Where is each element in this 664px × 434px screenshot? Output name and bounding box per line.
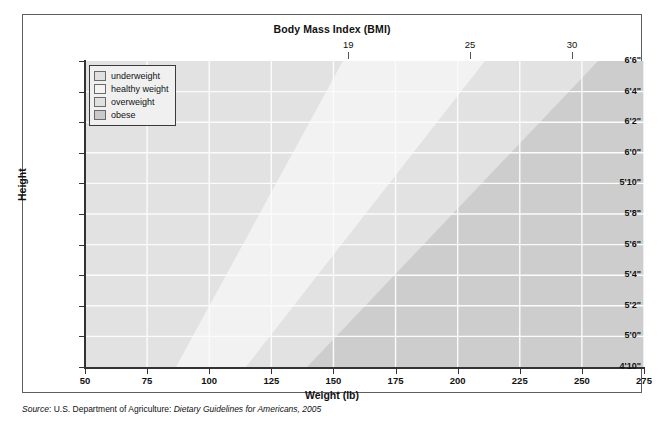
x-tick-label: 175: [388, 375, 404, 386]
y-tick-label: 6'6": [595, 55, 641, 65]
legend-item: overweight: [94, 96, 169, 108]
legend-swatch-icon: [94, 97, 106, 107]
x-tick: [644, 369, 645, 374]
legend-item: underweight: [94, 70, 169, 82]
x-axis-title: Weight (lb): [23, 389, 641, 401]
legend: underweighthealthy weightoverweightobese: [89, 65, 176, 126]
legend-swatch-icon: [94, 71, 106, 81]
x-tick-label: 225: [512, 375, 528, 386]
y-tick: [79, 336, 84, 337]
y-tick-label: 4'10": [595, 361, 641, 371]
bmi-figure: Body Mass Index (BMI) 192530 6'6"6'4"6'2…: [22, 14, 642, 393]
bmi-tick: [348, 52, 349, 59]
x-tick: [582, 369, 583, 374]
y-tick-label: 6'4": [595, 86, 641, 96]
source-mid: : U.S. Department of Agriculture:: [49, 404, 174, 414]
bmi-tick-label: 25: [465, 39, 476, 50]
y-tick-label: 5'4": [595, 269, 641, 279]
x-tick: [396, 369, 397, 374]
bmi-tick: [572, 52, 573, 59]
legend-swatch-icon: [94, 84, 106, 94]
x-tick-label: 150: [326, 375, 342, 386]
y-axis-line: [84, 60, 86, 368]
x-tick-label: 125: [263, 375, 279, 386]
x-tick-label: 100: [201, 375, 217, 386]
y-axis-title: Height: [16, 168, 28, 201]
y-tick: [79, 183, 84, 184]
legend-item-label: overweight: [111, 97, 155, 107]
y-tick-label: 5'6": [595, 239, 641, 249]
x-tick: [333, 369, 334, 374]
x-tick-label: 250: [574, 375, 590, 386]
y-tick: [79, 92, 84, 93]
y-tick-label: 5'10": [595, 177, 641, 187]
x-tick-label: 75: [142, 375, 153, 386]
x-tick: [458, 369, 459, 374]
legend-item: healthy weight: [94, 83, 169, 95]
legend-item-label: underweight: [111, 71, 160, 81]
y-tick-label: 5'8": [595, 208, 641, 218]
x-tick: [85, 369, 86, 374]
x-tick: [271, 369, 272, 374]
x-tick: [209, 369, 210, 374]
y-tick: [79, 153, 84, 154]
y-tick: [79, 367, 84, 368]
y-tick: [79, 214, 84, 215]
bmi-tick-label: 19: [343, 39, 354, 50]
y-tick: [79, 275, 84, 276]
source-title: Dietary Guidelines for Americans, 2005: [174, 404, 322, 414]
x-tick-label: 50: [80, 375, 91, 386]
x-tick: [147, 369, 148, 374]
legend-swatch-icon: [94, 110, 106, 120]
y-tick: [79, 306, 84, 307]
bmi-tick: [470, 52, 471, 59]
bmi-tick-label: 30: [567, 39, 578, 50]
x-tick-label: 200: [450, 375, 466, 386]
y-tick-label: 6'2": [595, 116, 641, 126]
y-tick: [79, 61, 84, 62]
source-prefix: Source: [22, 404, 49, 414]
y-tick: [79, 122, 84, 123]
y-tick: [79, 245, 84, 246]
chart-title: Body Mass Index (BMI): [23, 23, 641, 35]
y-tick-label: 5'2": [595, 300, 641, 310]
legend-item-label: healthy weight: [111, 84, 169, 94]
x-axis-line: [84, 367, 645, 369]
x-tick-label: 275: [636, 375, 652, 386]
legend-item: obese: [94, 109, 169, 121]
y-tick-label: 5'0": [595, 330, 641, 340]
y-tick-label: 6'0": [595, 147, 641, 157]
legend-item-label: obese: [111, 110, 136, 120]
source-caption: Source: U.S. Department of Agriculture: …: [22, 404, 321, 414]
x-tick: [520, 369, 521, 374]
